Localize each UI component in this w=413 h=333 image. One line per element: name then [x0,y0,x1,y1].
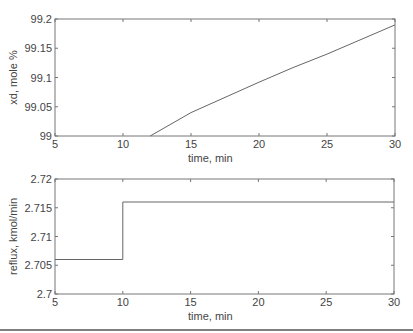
figure: 510152025309999.0599.199.1599.2time, min… [0,0,413,333]
x-axis-label: time, min [188,310,233,322]
x-tick-label: 25 [321,138,333,150]
x-tick-label: 10 [117,138,129,150]
y-tick-label: 99.1 [31,72,52,84]
reflux-series-line [55,202,394,260]
y-tick-label: 2.715 [24,202,52,214]
x-tick-label: 30 [388,296,400,308]
plot-frame [55,19,395,136]
x-axis-label: time, min [188,152,233,164]
xd-plot: 510152025309999.0599.199.1599.2time, min… [7,13,401,164]
y-tick-label: 2.71 [31,231,52,243]
x-tick-label: 20 [253,138,265,150]
y-tick-label: 99.2 [31,13,52,25]
x-tick-label: 30 [389,138,401,150]
y-axis-label: xd, mole % [7,50,19,105]
x-tick-label: 5 [52,296,58,308]
xd-series-line [150,25,395,136]
x-tick-label: 5 [52,138,58,150]
x-tick-label: 20 [252,296,264,308]
y-tick-label: 99.15 [24,42,52,54]
x-tick-label: 15 [185,138,197,150]
reflux-plot: 510152025302.72.7052.712.7152.72time, mi… [7,173,400,322]
y-tick-label: 2.705 [24,259,52,271]
x-tick-label: 15 [184,296,196,308]
y-tick-label: 2.7 [37,288,52,300]
plot-frame [55,179,394,294]
y-tick-label: 2.72 [31,173,52,185]
x-tick-label: 10 [117,296,129,308]
y-tick-label: 99 [40,130,52,142]
x-tick-label: 25 [320,296,332,308]
y-axis-label: reflux, kmol/min [7,198,19,275]
y-tick-label: 99.05 [24,101,52,113]
